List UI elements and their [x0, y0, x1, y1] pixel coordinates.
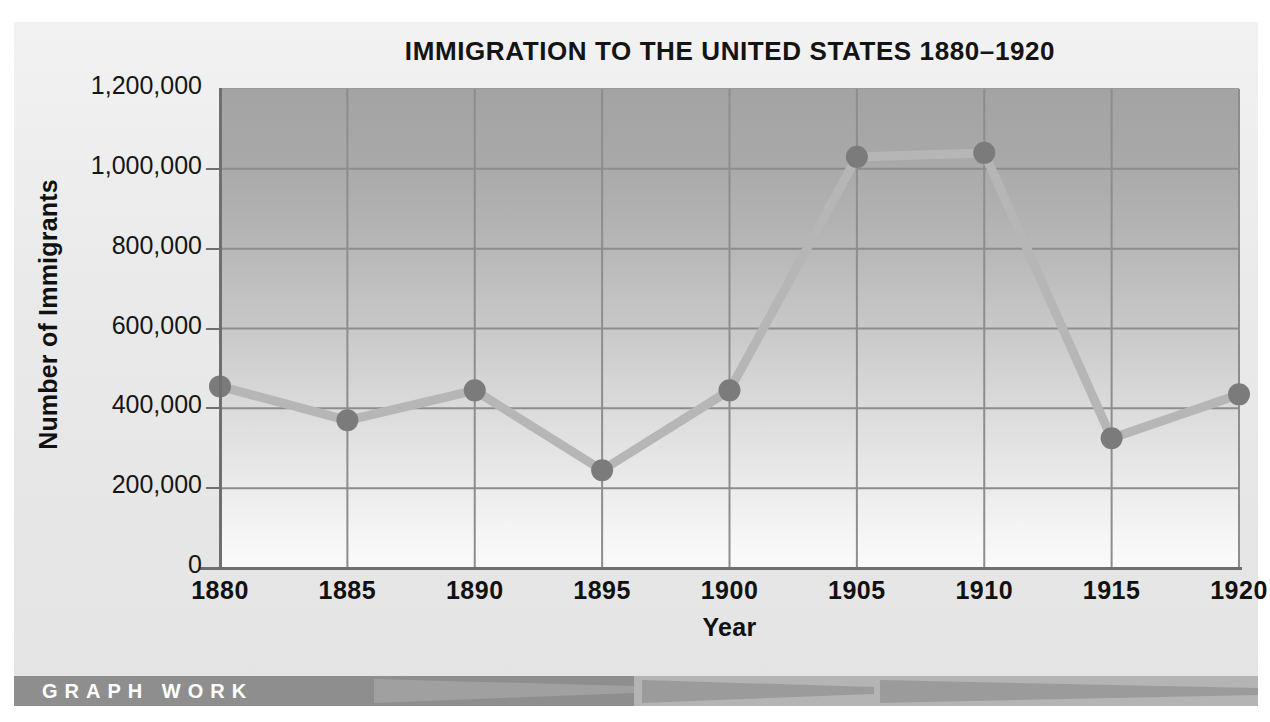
footer-label: GRAPH WORK: [42, 680, 253, 703]
x-axis-line: [200, 567, 1242, 570]
y-axis-tick-label: 1,200,000: [22, 71, 202, 100]
x-axis-tick-label: 1895: [542, 576, 662, 605]
data-point-marker: [1228, 383, 1250, 405]
x-axis-tick-label: 1910: [924, 576, 1044, 605]
data-point-marker: [1101, 427, 1123, 449]
data-point-marker: [973, 142, 995, 164]
x-axis-tick-label: 1920: [1179, 576, 1270, 605]
data-point-marker: [336, 409, 358, 431]
y-axis-tick-label: 0: [22, 550, 202, 579]
y-axis-tick-mark: [206, 248, 220, 250]
page-title: IMMIGRATION TO THE UNITED STATES 1880–19…: [220, 36, 1240, 67]
y-axis-tick-mark: [206, 328, 220, 330]
data-point-marker: [846, 146, 868, 168]
x-axis-tick-label: 1890: [415, 576, 535, 605]
y-axis-tick-mark: [206, 168, 220, 170]
chart-canvas: [220, 89, 1239, 568]
x-axis-tick-label: 1885: [287, 576, 407, 605]
y-axis-tick-mark: [206, 407, 220, 409]
x-axis-tick-label: 1900: [670, 576, 790, 605]
x-axis-title: Year: [220, 613, 1239, 642]
footer-bar: GRAPH WORK: [14, 676, 1258, 706]
y-axis-tick-mark: [206, 487, 220, 489]
x-axis-tick-label: 1880: [160, 576, 280, 605]
data-point-marker: [719, 379, 741, 401]
x-axis-tick-label: 1905: [797, 576, 917, 605]
y-axis-title: Number of Immigrants: [34, 115, 63, 515]
plot-area: [220, 88, 1239, 567]
x-axis-tick-label: 1915: [1052, 576, 1172, 605]
data-point-marker: [464, 379, 486, 401]
data-point-marker: [591, 459, 613, 481]
